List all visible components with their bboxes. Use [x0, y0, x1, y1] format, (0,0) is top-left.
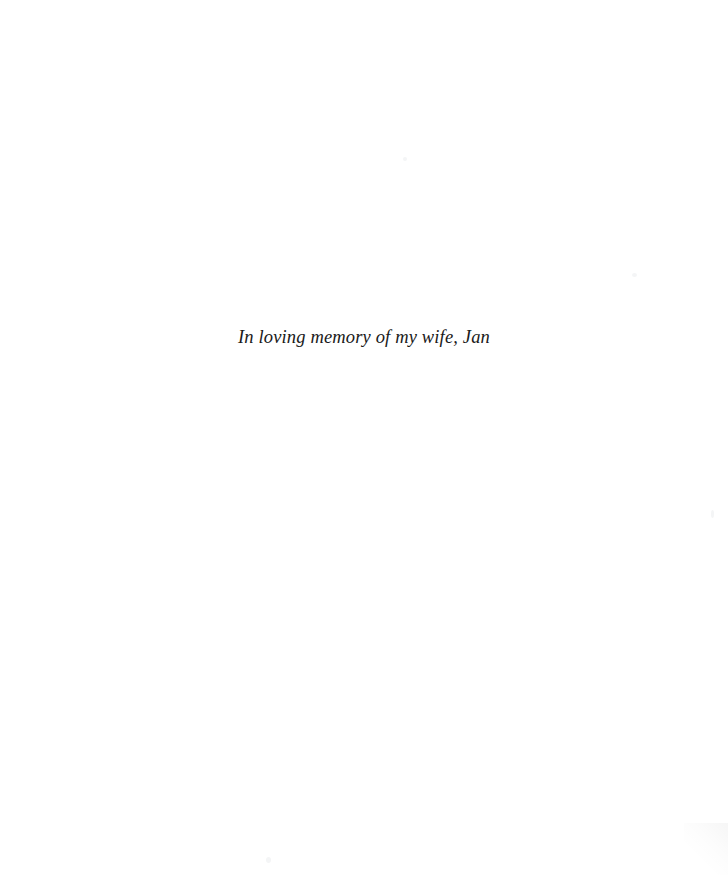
page-curl-shadow [684, 823, 728, 875]
paper-speck-upper-right [403, 157, 407, 161]
dedication-block: In loving memory of my wife, Jan [0, 326, 728, 349]
paper-speck-top-right [632, 273, 637, 277]
dedication-page: In loving memory of my wife, Jan [0, 0, 728, 875]
paper-speck-right-edge [711, 510, 714, 518]
dedication-text: In loving memory of my wife, Jan [238, 326, 490, 349]
paper-speck-bottom-left [266, 857, 271, 863]
